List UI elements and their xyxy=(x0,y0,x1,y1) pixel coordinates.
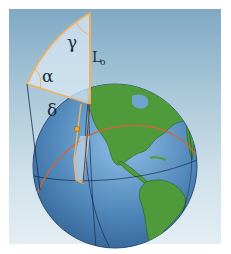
spherical-triangle xyxy=(27,13,90,104)
label-gamma: γ xyxy=(67,32,77,52)
label-L-subscript: o xyxy=(100,57,105,67)
observer-point xyxy=(74,126,79,131)
label-alpha: α xyxy=(42,66,54,86)
globe xyxy=(33,74,200,248)
label-delta: δ xyxy=(47,100,57,120)
globe-diagram: γ α δ L o xyxy=(0,0,231,254)
